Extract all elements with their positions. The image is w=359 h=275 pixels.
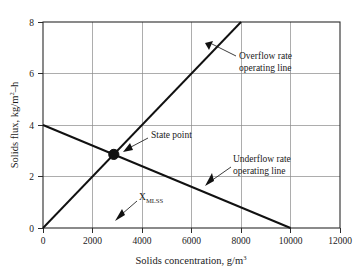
y-tick-label: 4 <box>29 121 34 131</box>
y-tick-label: 6 <box>29 69 34 79</box>
x-tick-label: 12000 <box>328 236 352 246</box>
y-tick-labels: 0 2 4 6 8 <box>29 18 34 234</box>
x-tick-label: 0 <box>41 236 46 246</box>
x-tick-label: 10000 <box>279 236 303 246</box>
x-axis-title: Solids concentration, g/m3 <box>136 254 248 266</box>
solids-flux-chart: 0 2000 4000 6000 8000 10000 12000 0 2 4 … <box>0 0 359 275</box>
y-tick-label: 0 <box>29 224 34 234</box>
underflow-annotation-line2: operating line <box>233 166 286 176</box>
y-axis-title-text: Solids flux, kg/m <box>9 96 20 169</box>
x-tick-labels: 0 2000 4000 6000 8000 10000 12000 <box>41 236 353 246</box>
x-tick-marks <box>43 228 340 233</box>
x-tick-label: 6000 <box>182 236 201 246</box>
y-axis-title-tail: –h <box>9 81 20 93</box>
y-tick-marks <box>38 22 43 228</box>
x-axis-title-text: Solids concentration, g/m <box>136 255 244 266</box>
y-tick-label: 2 <box>29 172 34 182</box>
x-axis-title-superscript: 3 <box>243 254 247 261</box>
x-tick-label: 4000 <box>133 236 152 246</box>
y-tick-label: 8 <box>29 18 34 28</box>
x-tick-label: 8000 <box>232 236 251 246</box>
state-point-marker <box>109 149 119 159</box>
y-axis-title: Solids flux, kg/m2–h <box>8 81 20 168</box>
underflow-annotation-line1: Underflow rate <box>233 154 291 164</box>
xmlss-subscript: MLSS <box>146 197 164 204</box>
overflow-annotation-line2: operating line <box>239 63 292 73</box>
overflow-annotation-line1: Overflow rate <box>239 51 292 61</box>
state-point-annotation-label: State point <box>151 130 192 140</box>
chart-canvas: 0 2000 4000 6000 8000 10000 12000 0 2 4 … <box>0 0 359 275</box>
x-tick-label: 2000 <box>83 236 102 246</box>
